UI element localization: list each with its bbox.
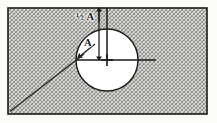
engineering-drawing-figure: ½ A A xyxy=(0,0,217,123)
dimension-label-a: A xyxy=(84,37,92,48)
dimension-label-half-a: ½ A xyxy=(76,11,94,22)
drawing-canvas xyxy=(0,0,217,123)
